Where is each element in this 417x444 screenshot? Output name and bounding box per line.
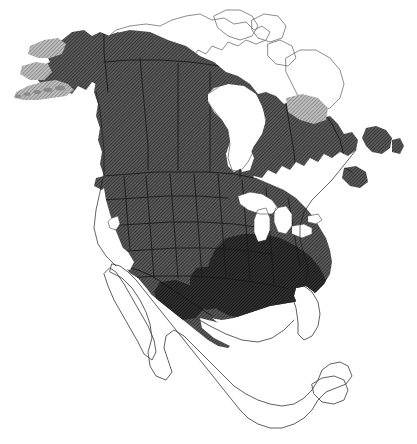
range-map-figure — [0, 0, 417, 444]
north-america-range-map — [0, 0, 417, 444]
